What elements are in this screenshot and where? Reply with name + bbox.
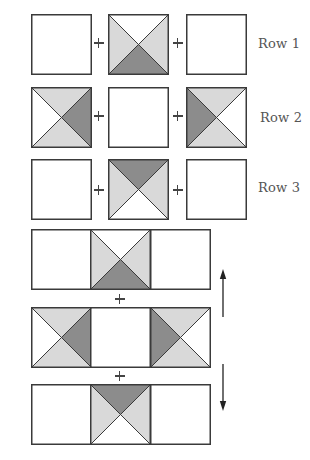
joined-row-3-block-1	[31, 384, 92, 445]
plus-icon	[94, 185, 104, 195]
row-3-block-3	[186, 159, 247, 220]
plus-icon	[173, 38, 183, 48]
row-1-label: Row 1	[258, 36, 300, 51]
row-3-label: Row 3	[258, 180, 300, 195]
joined-row-3-block-2	[90, 384, 151, 445]
row-3-block-1	[31, 159, 92, 220]
row-2-label: Row 2	[260, 110, 302, 125]
row-1-block-3	[186, 14, 247, 75]
row-3-block-2	[108, 159, 169, 220]
plus-icon	[173, 111, 183, 121]
row-2-block-1	[31, 87, 92, 148]
arrow-up-icon	[218, 269, 228, 317]
plus-icon	[115, 294, 125, 304]
joined-row-2-block-1	[31, 307, 92, 368]
joined-row-2-block-3	[150, 307, 211, 368]
row-2-block-2	[108, 87, 169, 148]
joined-row-1-block-3	[150, 229, 211, 290]
plus-icon	[173, 185, 183, 195]
plus-icon	[94, 111, 104, 121]
plus-icon	[94, 38, 104, 48]
joined-row-2-block-2	[90, 307, 151, 368]
joined-row-1-block-2	[90, 229, 151, 290]
row-1-block-2	[108, 14, 169, 75]
row-1-block-1	[31, 14, 92, 75]
arrow-down-icon	[218, 364, 228, 411]
joined-row-1-block-1	[31, 229, 92, 290]
plus-icon	[115, 371, 125, 381]
joined-row-3-block-3	[150, 384, 211, 445]
row-2-block-3	[186, 87, 247, 148]
